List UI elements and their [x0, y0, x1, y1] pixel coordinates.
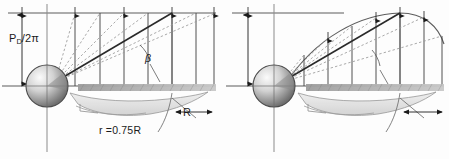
envelope-tick-arrows [22, 7, 214, 16]
helix-ray [55, 13, 216, 82]
helix-ray [282, 18, 376, 82]
panel-constant-pitch: PD/2π r =0.75R R β [0, 0, 222, 159]
diagram-canvas: PD/2π r =0.75R R β [0, 0, 449, 159]
radius-station-lines [304, 13, 442, 86]
tip-radius-label-left: R [183, 106, 191, 118]
pitch-envelope-curve [284, 13, 444, 86]
beta-leader-line [150, 64, 160, 82]
helix-ray [282, 55, 304, 82]
radius-station-label-left: r =0.75R [99, 124, 141, 136]
helix-ray [55, 13, 100, 82]
helix-ray [282, 17, 424, 82]
pitch-suffix: /2π [22, 32, 39, 44]
right-panel-graphic [224, 0, 449, 159]
helix-pitch-rays [282, 17, 442, 82]
reference-pitch-ray [282, 13, 400, 82]
helix-ray [55, 13, 148, 82]
helix-pitch-rays [55, 13, 216, 82]
swept-disc-band [306, 84, 444, 91]
beta-leader-line [380, 70, 388, 84]
swept-disc-band [78, 84, 216, 91]
panel-variable-pitch: PD(r)/2π r =0.75R R β [224, 0, 449, 159]
pitch-label-left: PD/2π [9, 32, 39, 46]
helix-ray [55, 13, 196, 82]
beta-angle-label-left: β [145, 52, 151, 64]
